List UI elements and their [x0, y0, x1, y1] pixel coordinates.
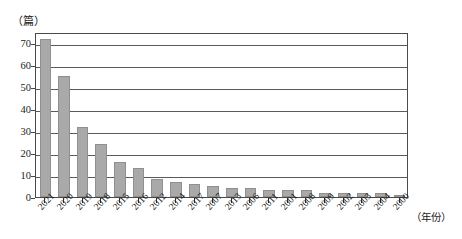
- x-axis-unit-label: （年份）: [411, 209, 451, 224]
- y-tick-mark: [31, 66, 35, 67]
- bar: [40, 39, 52, 197]
- bar: [77, 127, 89, 197]
- y-tick-label: 30: [7, 127, 31, 137]
- y-tick-label: 70: [7, 39, 31, 49]
- y-tick-mark: [31, 176, 35, 177]
- y-tick-mark: [31, 198, 35, 199]
- y-tick-mark: [31, 88, 35, 89]
- y-tick-label: 20: [7, 149, 31, 159]
- bar-series: [36, 34, 407, 197]
- plot-area: [35, 33, 408, 198]
- y-tick-mark: [31, 154, 35, 155]
- bar: [58, 76, 70, 197]
- y-tick-label: 10: [7, 171, 31, 181]
- bar: [95, 144, 107, 197]
- bar-chart: （篇） 010203040506070 20212020201920182015…: [0, 0, 462, 239]
- y-tick-label: 60: [7, 61, 31, 71]
- y-axis-unit-label: （篇）: [12, 12, 45, 28]
- y-tick-label: 40: [7, 105, 31, 115]
- y-tick-mark: [31, 132, 35, 133]
- y-tick-mark: [31, 110, 35, 111]
- y-tick-label: 0: [7, 193, 31, 203]
- y-tick-mark: [31, 44, 35, 45]
- y-tick-label: 50: [7, 83, 31, 93]
